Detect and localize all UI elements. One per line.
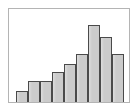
histogram-bars — [16, 9, 123, 102]
histogram-bar-fill — [29, 82, 39, 102]
histogram-bar — [112, 54, 124, 102]
histogram-bar-fill — [65, 65, 75, 102]
histogram-thumbnail-root — [0, 0, 139, 111]
histogram-bar — [28, 81, 40, 102]
histogram-bar — [76, 54, 88, 102]
histogram-bar — [52, 72, 64, 102]
histogram-bar — [100, 37, 112, 102]
plot-area — [9, 9, 129, 102]
histogram-bar-fill — [53, 73, 63, 102]
histogram-bar-fill — [77, 55, 87, 102]
histogram-bar-fill — [41, 82, 51, 102]
histogram-bar-fill — [89, 26, 99, 102]
histogram-bar-fill — [17, 92, 27, 102]
histogram-bar — [40, 81, 52, 102]
histogram-bar-fill — [113, 55, 123, 102]
chart-frame — [8, 8, 130, 103]
histogram-bar — [16, 91, 28, 102]
histogram-bar-fill — [101, 38, 111, 102]
histogram-bar — [64, 64, 76, 102]
histogram-bar — [88, 25, 100, 102]
